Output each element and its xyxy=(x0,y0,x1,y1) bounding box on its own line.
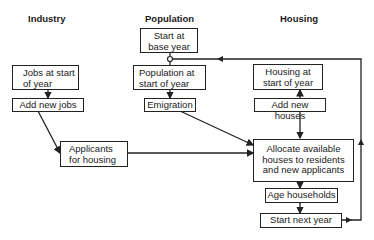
box-jobs-start: Jobs at start of year xyxy=(12,65,79,90)
box-start-base-year: Start at base year xyxy=(140,28,198,53)
box-emigration: Emigration xyxy=(144,98,196,112)
box-applicants: Applicants for housing xyxy=(60,141,128,167)
box-jobs-start-label: Jobs at start of year xyxy=(23,68,78,89)
box-add-new-houses: Add new houses xyxy=(254,98,326,112)
box-start-next-year: Start next year xyxy=(260,213,342,228)
junction-circle xyxy=(168,57,173,62)
arrow-emigration-to-allocate xyxy=(180,111,253,145)
box-population-start: Population at start of year xyxy=(133,65,206,90)
column-header-housing: Housing xyxy=(280,13,318,24)
column-header-industry: Industry xyxy=(28,13,65,24)
box-emigration-label: Emigration xyxy=(145,100,195,111)
box-add-new-houses-label: Add new houses xyxy=(255,100,325,121)
box-allocate: Allocate available houses to residents a… xyxy=(253,139,354,182)
box-age-households-label: Age households xyxy=(266,190,337,201)
column-header-population: Population xyxy=(145,13,194,24)
box-allocate-label: Allocate available houses to residents a… xyxy=(254,144,353,176)
box-applicants-label: Applicants for housing xyxy=(69,144,127,165)
start-next-arrowhead xyxy=(346,217,352,223)
box-start-base-year-label: Start at base year xyxy=(141,31,197,52)
arrow-addjobs-to-applicants xyxy=(38,111,60,153)
box-age-households: Age households xyxy=(265,188,338,203)
box-start-next-year-label: Start next year xyxy=(261,215,341,226)
loop-arrowhead xyxy=(217,56,223,62)
box-population-start-label: Population at start of year xyxy=(139,68,205,89)
loop-up-arrowhead xyxy=(358,139,364,145)
box-housing-start-label: Housing at start of year xyxy=(254,67,322,88)
box-add-new-jobs: Add new jobs xyxy=(12,98,84,112)
box-housing-start: Housing at start of year xyxy=(253,64,323,90)
box-add-new-jobs-label: Add new jobs xyxy=(13,100,83,111)
